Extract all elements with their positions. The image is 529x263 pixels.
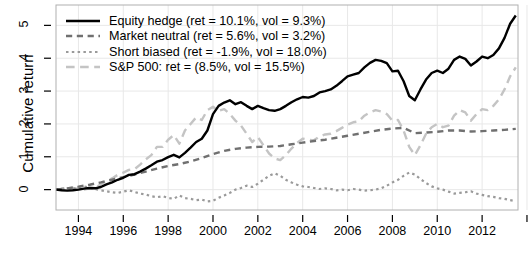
legend-key-4 <box>66 61 100 73</box>
y-tick-label: 5 <box>17 10 31 38</box>
legend-key-2 <box>66 30 100 42</box>
y-tick-label: 4 <box>17 43 31 71</box>
legend-label-2: Market neutral (ret = 5.6%, vol = 3.2%) <box>109 29 325 43</box>
legend-label-4: S&P 500: ret = (8.5%, vol = 15.5%) <box>109 60 305 74</box>
legend-label-1: Equity hedge (ret = 10.1%, vol = 9.3%) <box>109 14 325 28</box>
x-tick-label: 2012 <box>452 224 512 238</box>
chart-figure: Cumulative return 012345 199419961998200… <box>0 0 529 263</box>
y-tick-label: 3 <box>17 76 31 104</box>
legend-key-1 <box>66 15 100 27</box>
y-tick-label: 0 <box>17 175 31 203</box>
y-tick-label: 1 <box>17 142 31 170</box>
legend-label-3: Short biased (ret = -1.9%, vol = 18.0%) <box>109 45 327 59</box>
legend-key-3 <box>66 46 100 58</box>
y-tick-label: 2 <box>17 109 31 137</box>
